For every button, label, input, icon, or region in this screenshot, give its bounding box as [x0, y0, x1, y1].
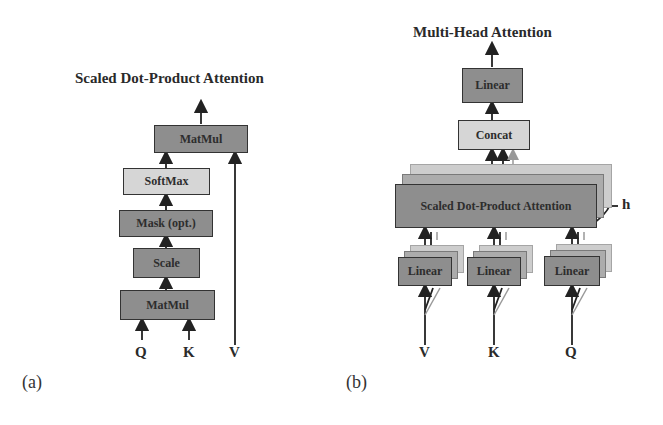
linear-v-block: Linear: [398, 257, 452, 286]
scale-block: Scale: [133, 248, 200, 278]
softmax-block: SoftMax: [123, 168, 210, 195]
mha-title: Multi-Head Attention: [413, 24, 552, 41]
input-q-label: Q: [135, 344, 147, 361]
caption-a: (a): [22, 372, 42, 393]
mha-input-k-label: K: [488, 344, 500, 361]
sdpa-title: Scaled Dot-Product Attention: [75, 70, 264, 87]
mha-input-q-label: Q: [565, 344, 577, 361]
linear-q-block: Linear: [544, 256, 600, 286]
sdpa-block: Scaled Dot-Product Attention: [395, 184, 597, 228]
mask-block: Mask (opt.): [119, 210, 213, 237]
matmul-bottom-block: MatMul: [120, 290, 215, 320]
matmul-top-block: MatMul: [154, 125, 248, 153]
input-v-label: V: [229, 344, 240, 361]
input-k-label: K: [183, 344, 195, 361]
mha-input-v-label: V: [419, 344, 430, 361]
caption-b: (b): [346, 372, 367, 393]
linear-k-block: Linear: [467, 257, 521, 286]
linear-top-block: Linear: [462, 68, 523, 103]
concat-block: Concat: [458, 120, 530, 150]
heads-count-label: h: [622, 196, 630, 213]
